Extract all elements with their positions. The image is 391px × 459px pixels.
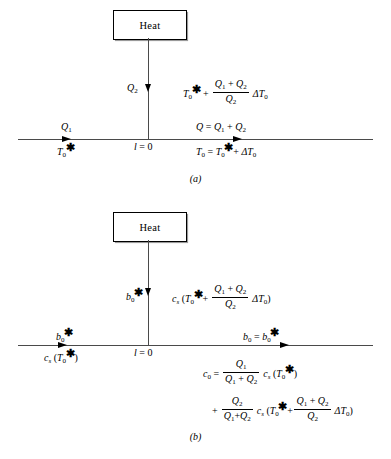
inlet-state-label-a: T0✱ [57,141,75,159]
vertical-flow-arrowhead-b [145,288,151,296]
vertical-concentration-expression-b: cs (T0✱+ Q1 + Q2Q2 ΔT0) [172,283,271,311]
heat-box-label: Heat [139,20,160,31]
panel-a: Heat Q2 T0✱ + Q1 + Q2Q2 ΔT0 Q1 T0✱ l = 0… [0,0,391,200]
outlet-flow-arrowhead-b [280,342,289,348]
vertical-temperature-expression-a: T0✱ + Q1 + Q2Q2 ΔT0 [183,78,268,106]
inlet-flow-label-a: Q1 [61,121,72,134]
vertical-flow-label-a: Q2 [127,82,138,95]
origin-label-a: l = 0 [134,141,152,152]
outlet-flow-label-b: b0 = b0✱ [243,326,279,344]
heat-box-label: Heat [139,222,160,233]
origin-label-b: l = 0 [134,347,152,358]
inlet-state-label-b: cs (T0✱) [44,347,78,365]
panel-caption-b: (b) [0,431,391,442]
outlet-flow-label-a: Q = Q1 + Q2 [196,121,246,134]
outlet-state-expression-b-line1: c0 = Q1Q1 + Q2 cs (T0✱) [203,358,297,386]
horizontal-axis-line-a [18,139,373,140]
vertical-flow-label-b: b0✱ [126,286,143,304]
heat-source-box-a: Heat [113,10,187,40]
outlet-state-label-a: T0 = T0✱+ ΔT0 [196,141,256,159]
outlet-state-expression-b-line2: + Q2Q1+Q2 cs (T0✱+Q1 + Q2Q2 ΔT0) [212,395,353,423]
horizontal-axis-line-b [18,345,373,346]
vertical-flow-arrowhead-a [145,84,151,92]
panel-caption-a: (a) [0,173,391,184]
heat-source-box-b: Heat [113,212,187,242]
inlet-flow-label-b: b0✱ [56,326,73,344]
panel-b: Heat b0✱ cs (T0✱+ Q1 + Q2Q2 ΔT0) b0✱ cs … [0,195,391,459]
